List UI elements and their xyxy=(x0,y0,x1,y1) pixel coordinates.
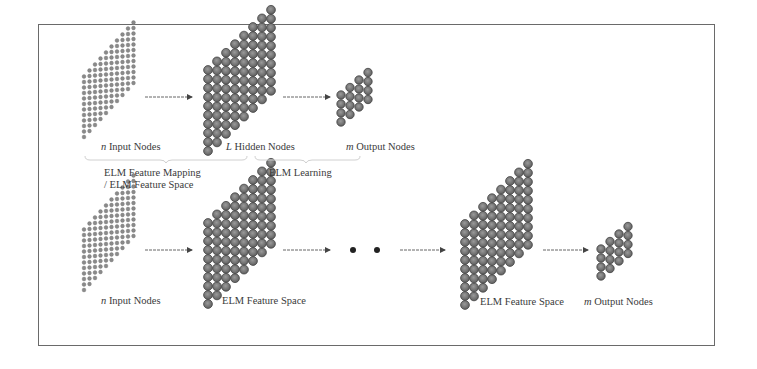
top-output-nodes-label: m Output Nodes xyxy=(346,141,415,152)
top-input-nodes-grid xyxy=(82,21,135,139)
ellipsis-dot-1 xyxy=(350,247,356,253)
top-output-nodes-grid xyxy=(337,68,372,126)
elm-learning-label: ELM Learning xyxy=(269,167,332,178)
top-hidden-nodes-grid xyxy=(204,5,276,155)
bottom-feature-space-2-grid xyxy=(461,159,533,309)
bottom-output-nodes-grid xyxy=(597,222,632,280)
top-input-nodes-label: n Input Nodes xyxy=(101,141,161,152)
bottom-feature-space-1-label: ELM Feature Space xyxy=(222,295,306,306)
bottom-input-nodes-grid xyxy=(82,174,135,292)
feature-space-label: / ELM Feature Space xyxy=(104,179,194,190)
bottom-output-nodes-label: m Output Nodes xyxy=(584,296,653,307)
bottom-input-nodes-label: n Input Nodes xyxy=(101,295,161,306)
brace-feature-mapping xyxy=(85,156,247,163)
ellipsis-dot-2 xyxy=(374,247,380,253)
bottom-feature-space-1-grid xyxy=(204,158,276,308)
bottom-feature-space-2-label: ELM Feature Space xyxy=(480,296,564,307)
feature-mapping-label: ELM Feature Mapping xyxy=(104,167,201,178)
top-hidden-nodes-label: L Hidden Nodes xyxy=(226,141,295,152)
